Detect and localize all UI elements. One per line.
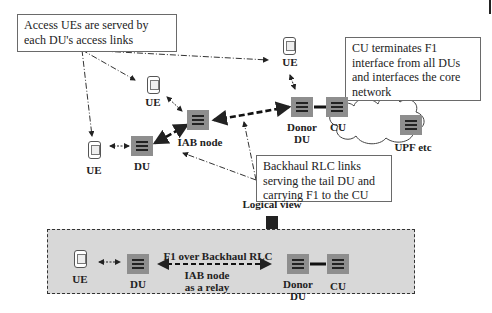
- logical-donor-du-line2: DU: [290, 290, 306, 302]
- upf-label: UPF etc: [393, 141, 433, 153]
- annot-line-ue-mid: [82, 50, 135, 80]
- ue-icon-left: [88, 141, 101, 159]
- ue-label-top: UE: [280, 56, 300, 68]
- access-link-ue-iab: [167, 97, 182, 111]
- logical-donor-du-line1: Donor: [283, 278, 313, 290]
- iab-relay-line1: IAB node: [185, 269, 230, 281]
- logical-view-label: Logical view: [236, 198, 308, 210]
- logical-du-label: DU: [126, 278, 150, 290]
- callout-cu: CU terminates F1 interface from all DUs …: [345, 37, 481, 101]
- callout-access-ues: Access UEs are served by each DU's acces…: [17, 14, 177, 52]
- cu-icon: [326, 97, 348, 117]
- iab-relay-line2: as a relay: [185, 281, 229, 293]
- iab-relay-label: IAB node as a relay: [175, 269, 239, 293]
- du-label: DU: [130, 160, 154, 172]
- annot-line-backhaul: [244, 122, 256, 180]
- donor-du-label: Donor DU: [284, 121, 320, 145]
- logical-cu-icon: [327, 254, 349, 274]
- donor-du-line1: Donor: [287, 121, 317, 133]
- logical-cu-label: CU: [326, 280, 350, 292]
- backhaul-donor-iab: [214, 107, 289, 120]
- logical-ue-label: UE: [70, 273, 90, 285]
- upf-icon: [400, 115, 422, 135]
- access-link-ue-donor: [290, 75, 295, 89]
- donor-du-icon: [291, 97, 313, 117]
- logical-du-icon: [127, 254, 149, 274]
- ue-label-left: UE: [84, 164, 104, 176]
- donor-du-line2: DU: [294, 133, 310, 145]
- ue-icon-mid: [147, 76, 160, 94]
- du-icon: [131, 136, 153, 156]
- logical-ue-icon: [74, 250, 87, 268]
- annot-line-iab: [183, 153, 256, 180]
- cu-label: CU: [326, 121, 350, 133]
- logical-donor-du-icon: [287, 254, 309, 274]
- annot-line-ue-left: [82, 50, 92, 136]
- logical-donor-du-label: Donor DU: [280, 278, 316, 302]
- iab-node-label: IAB node: [172, 136, 228, 148]
- ue-icon-top: [283, 37, 296, 55]
- callout-backhaul: Backhaul RLC links serving the tail DU a…: [256, 155, 392, 202]
- iab-node-icon: [187, 110, 209, 130]
- ue-label-mid: UE: [143, 96, 163, 108]
- f1-over-backhaul-label: F1 over Backhaul RLC: [158, 250, 278, 262]
